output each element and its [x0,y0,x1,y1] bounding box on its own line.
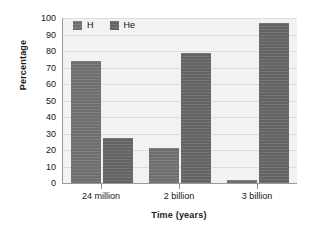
bar-group [149,18,211,183]
x-axis-tick-labels: 24 million2 billion3 billion [62,191,296,205]
bar-he-2 [259,23,289,183]
bar-h-2 [227,180,257,183]
bar-he-0 [103,138,133,183]
y-axis-title: Percentage [18,10,28,120]
y-axis-tick-label: 10 [30,162,56,171]
x-axis-tick-label: 3 billion [242,191,273,201]
y-axis-tick-label: 60 [30,80,56,89]
bar-group [71,18,133,183]
x-axis-tick-label: 2 billion [164,191,195,201]
legend-label: H [87,21,94,30]
y-axis-tick-labels: 0102030405060708090100 [30,18,56,183]
bar-h-1 [149,148,179,183]
y-axis-tick-label: 90 [30,30,56,39]
bar-he-1 [181,53,211,183]
y-axis-tick-label: 70 [30,63,56,72]
legend-swatch-icon [110,21,119,30]
x-axis-tick-mark [179,184,180,189]
y-axis-tick-label: 80 [30,47,56,56]
bar-chart: Percentage 0102030405060708090100 HHe 24… [0,0,314,241]
x-axis-tick-mark [101,184,102,189]
y-axis-tick-label: 30 [30,129,56,138]
bar-group [227,18,289,183]
y-axis-tick-label: 0 [30,179,56,188]
legend-item-h[interactable]: H [73,21,94,30]
x-axis-title: Time (years) [62,210,296,220]
y-axis-tick-label: 20 [30,146,56,155]
y-axis-tick-label: 40 [30,113,56,122]
legend-swatch-icon [73,21,82,30]
legend-item-he[interactable]: He [110,21,136,30]
x-axis-tick-marks [62,184,296,190]
y-axis-tick-label: 50 [30,96,56,105]
plot-area [62,18,297,184]
x-axis-tick-label: 24 million [82,191,120,201]
x-axis-tick-mark [257,184,258,189]
bar-h-0 [71,61,101,183]
legend: HHe [70,20,138,31]
y-axis-tick-label: 100 [30,14,56,23]
legend-label: He [124,21,136,30]
